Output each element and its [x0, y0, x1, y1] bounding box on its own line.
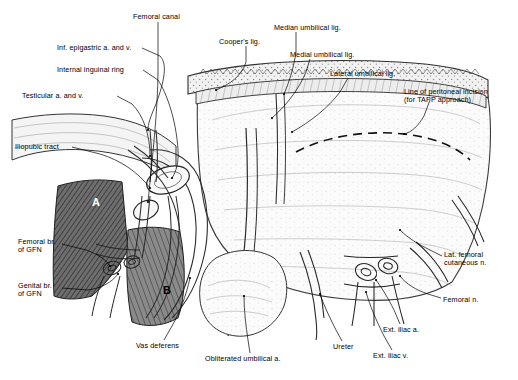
figure-root: Femoral canal Cooper's lig. Median umbil… — [0, 0, 518, 380]
label-medial-umbilical-lig: Medial umbilical lig. — [290, 51, 354, 59]
label-ext-iliac-v: Ext. iliac v. — [373, 352, 408, 360]
label-internal-inguinal-ring: Internal inguinal ring — [57, 66, 124, 74]
region-marker-b: B — [163, 284, 171, 296]
label-coopers-lig: Cooper's lig. — [219, 38, 260, 46]
label-inf-epigastric-a-and-v: Inf. epigastric a. and v. — [57, 44, 131, 52]
label-lateral-umbilical-lig: Lateral umbilical lig. — [330, 70, 395, 78]
region-marker-a: A — [92, 196, 100, 208]
label-femoral-n: Femoral n. — [443, 296, 478, 304]
label-femoral-canal: Femoral canal — [133, 13, 180, 21]
label-obliterated-umbilical-a: Obliterated umbilical a. — [205, 355, 281, 363]
femoral-canal-opening — [130, 196, 161, 223]
bladder-dome — [200, 251, 287, 337]
label-genital-br-of-gfn: Genital br. of GFN — [18, 282, 52, 299]
label-ext-iliac-a: Ext. iliac a. — [383, 326, 419, 334]
label-femoral-br-of-gfn: Femoral br. of GFN — [18, 238, 55, 255]
label-vas-deferens: Vas deferens — [136, 342, 179, 350]
label-iliopubic-tract: Iliopubic tract — [15, 143, 59, 151]
label-ureter: Ureter — [333, 343, 354, 351]
label-median-umbilical-lig: Median umbilical lig. — [274, 24, 341, 32]
region-a-shaded — [53, 180, 128, 299]
label-testicular-a-and-v: Testicular a. and v. — [22, 92, 83, 100]
label-lat-femoral-cutaneous-n: Lat. femoral cutaneous n. — [444, 251, 486, 268]
region-b-shaded — [127, 227, 184, 325]
label-line-of-peritoneal-incision: Line of peritoneal incision (for TAPP ap… — [404, 88, 488, 105]
anatomical-illustration — [0, 0, 518, 380]
